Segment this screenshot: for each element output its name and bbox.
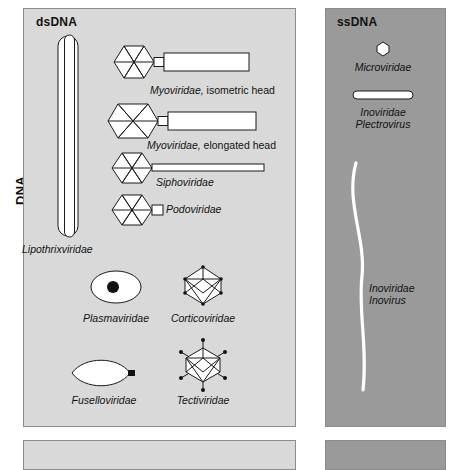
panel-title-ssdna: ssDNA [337, 15, 377, 29]
caption-siphoviridae: Siphoviridae [156, 176, 214, 188]
caption-tectiviridae: Tectiviridae [177, 394, 230, 406]
caption-podoviridae: Podoviridae [166, 203, 221, 215]
inoviridae-plectrovirus-icon [352, 88, 414, 102]
caption-plasmaviridae: Plasmaviridae [83, 312, 149, 324]
fuselloviridae-icon [68, 356, 140, 390]
caption-inoviridae-plectrovirus: Inoviridae Plectrovirus [356, 106, 411, 130]
inoviridae-inovirus-icon [334, 160, 394, 395]
myoviridae-elongated-icon [100, 98, 290, 144]
lipothrixviridae-icon [52, 34, 88, 238]
tectiviridae-icon [172, 336, 234, 394]
microviridae-icon [375, 41, 391, 57]
caption-lipothrixviridae: Lipothrixviridae [22, 243, 93, 255]
plasmaviridae-icon [86, 266, 146, 308]
caption-fuselloviridae: Fuselloviridae [72, 394, 137, 406]
caption-corticoviridae: Corticoviridae [171, 312, 235, 324]
panel-dsdna-next-row [23, 440, 296, 470]
caption-myoviridae-isometric: Myoviridae, isometric head [150, 84, 275, 96]
panel-ssdna-next-row [325, 440, 446, 470]
myoviridae-isometric-icon [104, 40, 284, 84]
caption-inoviridae-inovirus: Inoviridae Inovirus [369, 282, 415, 306]
caption-microviridae: Microviridae [355, 61, 412, 73]
corticoviridae-icon [178, 262, 228, 308]
panel-title-dsdna: dsDNA [36, 15, 77, 29]
